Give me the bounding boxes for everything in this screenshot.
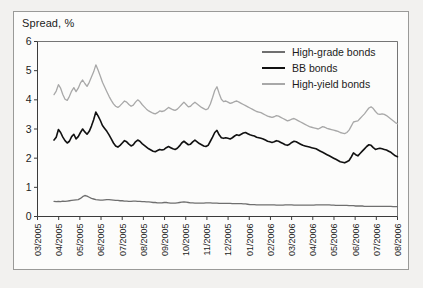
legend-item-bb: BB bonds [262,61,397,75]
x-tick-label: 11/2005 [202,224,212,256]
legend-item-high-grade: High-grade bonds [262,45,397,59]
series-line-high-grade-bonds [54,196,397,207]
legend-swatch-high-yield [262,83,285,85]
y-tick-label: 3 [26,123,32,135]
legend-label-high-yield: High-yield bonds [292,78,370,90]
series-line-bb-bonds [54,112,397,163]
x-tick-label: 03/2006 [287,224,297,257]
y-tick-label: 5 [26,64,32,76]
x-tick-label: 04/2005 [54,224,64,257]
x-tick-label: 09/2005 [160,224,170,257]
x-tick-label: 04/2006 [308,224,318,257]
x-tick-label: 07/2005 [118,224,128,257]
legend-swatch-high-grade [262,51,285,53]
y-tick-label: 4 [26,93,32,105]
x-tick-label: 05/2005 [75,224,85,257]
x-tick-label: 03/2005 [33,224,43,257]
legend-label-bb: BB bonds [292,62,338,74]
chart-figure: Spread, % 03/200504/200505/200506/200507… [0,0,423,288]
x-tick-label: 08/2005 [139,224,149,257]
legend-label-high-grade: High-grade bonds [292,46,375,58]
y-tick-label: 2 [26,152,32,164]
x-tick-labels: 03/200504/200505/200506/200507/200508/20… [33,224,403,257]
y-tick-labels: 0123456 [26,35,32,222]
y-tick-label: 6 [26,35,32,47]
x-tick-label: 06/2005 [96,224,106,257]
x-tick-label: 12/2005 [223,224,233,257]
x-tick-label: 08/2006 [393,224,403,257]
chart-legend: High-grade bonds BB bonds High-yield bon… [262,45,397,93]
legend-item-high-yield: High-yield bonds [262,77,397,91]
x-tick-label: 05/2006 [329,224,339,257]
plot-area: 03/200504/200505/200506/200507/200508/20… [0,0,423,288]
x-tick-label: 10/2005 [181,224,191,257]
y-tick-label: 1 [26,181,32,193]
x-tick-label: 07/2006 [372,224,382,257]
chart-svg: 03/200504/200505/200506/200507/200508/20… [0,0,423,288]
x-tick-label: 02/2006 [266,224,276,257]
x-tick-label: 06/2006 [351,224,361,257]
legend-swatch-bb [262,67,285,69]
y-tick-label: 0 [26,210,32,222]
x-tick-label: 01/2006 [245,224,255,257]
